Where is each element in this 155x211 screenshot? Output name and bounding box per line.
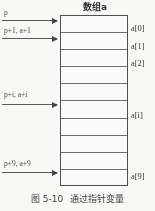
index-label-a2: a[2] [131, 59, 145, 68]
array-cell [61, 50, 127, 67]
index-label-a9: a[9] [131, 172, 145, 181]
array-cell [61, 33, 127, 50]
array-cell [61, 84, 127, 101]
array-cell [61, 16, 127, 33]
index-label-a0: a[0] [131, 24, 145, 33]
caption-text: 通过指针变量 [70, 194, 124, 204]
array-cell [61, 153, 127, 170]
pointer-arrow-pi [2, 104, 57, 105]
pointer-label-pi: p+i, a+i [4, 91, 27, 99]
caption-number: 图 5-10 [31, 194, 63, 204]
figure-container: 数组a a[0] a[1] a[2] a[i] a[9] p p+1, a+1 … [0, 0, 155, 211]
array-cell [61, 102, 127, 119]
array-cell [61, 136, 127, 153]
pointer-arrow-p9 [2, 172, 57, 173]
pointer-arrow-p1 [2, 38, 57, 39]
array-cell [61, 170, 127, 187]
pointer-label-p1: p+1, a+1 [4, 27, 31, 35]
array-cell [61, 119, 127, 136]
array-cell [61, 67, 127, 84]
array-title: 数组a [62, 0, 128, 13]
figure-caption: 图 5-10通过指针变量 [0, 192, 155, 205]
pointer-label-p: p [4, 9, 8, 17]
pointer-arrow-p [2, 20, 57, 21]
pointer-label-p9: p+9, a+9 [4, 160, 31, 168]
index-label-a1: a[1] [131, 42, 145, 51]
array-box [60, 15, 128, 186]
index-label-ai: a[i] [131, 111, 143, 120]
